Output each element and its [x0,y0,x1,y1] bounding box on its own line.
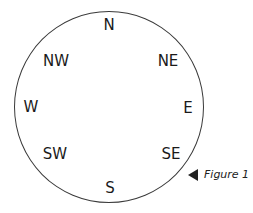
label-south: S [105,181,115,196]
compass-circle [14,11,204,203]
label-southeast: SE [162,147,181,162]
label-southwest: SW [43,147,67,162]
label-north: N [103,18,114,33]
label-west: W [24,100,39,115]
label-east: E [183,101,192,116]
figure-caption: Figure 1 [188,168,249,181]
label-northeast: NE [158,54,179,69]
figure-caption-text: Figure 1 [204,168,249,181]
label-northwest: NW [43,54,69,69]
triangle-pointer-icon [188,169,198,181]
